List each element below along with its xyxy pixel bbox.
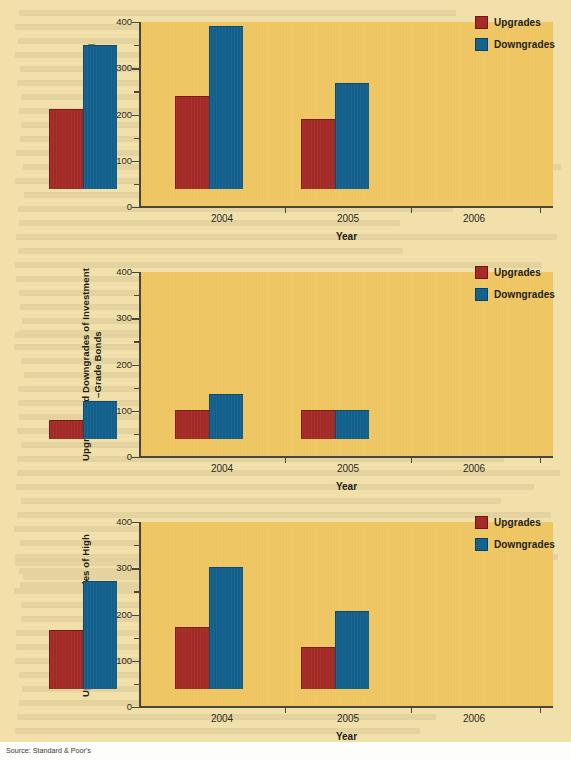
legend-label-downgrades: Downgrades [494,289,555,300]
legend-swatch-downgrades [475,538,488,551]
y-tick-minor [134,638,140,639]
x-tick-minor [540,707,541,713]
x-tick-minor [540,207,541,213]
x-tick-label: 2006 [451,713,497,724]
x-axis-title: Year [140,481,553,492]
legend-item-downgrades: Downgrades [475,288,555,301]
bar-upgrades-2004 [49,630,83,689]
x-tick-label: 2005 [325,713,371,724]
legend-label-upgrades: Upgrades [494,17,541,28]
x-axis-title: Year [140,731,553,742]
x-tick-minor [411,707,412,713]
x-tick-minor [285,457,286,463]
source-note: Source: Standard & Poor's [6,746,91,755]
bar-upgrades-2004 [49,109,83,189]
y-tick-major [132,207,140,208]
y-tick-major [132,365,140,366]
x-tick-minor [411,207,412,213]
y-tick-major [132,68,140,69]
chart-investment-grade: 4003002001000 Upgrades and Downgrades of… [0,254,571,502]
y-tick-major [132,457,140,458]
bar-downgrades-2004 [83,581,117,689]
y-tick-minor [134,184,140,185]
x-tick-minor [285,707,286,713]
y-tick-minor [134,45,140,46]
x-tick-minor [285,207,286,213]
y-tick-major [132,272,140,273]
x-tick-label: 2005 [325,463,371,474]
bar-downgrades-2005 [209,26,243,189]
x-tick-label: 2004 [199,463,245,474]
bar-upgrades-2006 [301,119,335,189]
bar-downgrades-2005 [209,567,243,689]
x-tick-minor [411,457,412,463]
x-tick-label: 2006 [451,463,497,474]
figure-page: 4003002001000 Total Number of Upgrades a… [0,0,571,761]
y-tick-minor [134,138,140,139]
y-tick-minor [134,341,140,342]
bar-group [0,254,413,439]
y-tick-major [132,161,140,162]
y-tick-minor [134,388,140,389]
x-axis-title: Year [140,231,553,242]
y-tick-label: 0 [102,702,132,712]
legend-item-upgrades: Upgrades [475,16,555,29]
legend-swatch-upgrades [475,266,488,279]
bar-upgrades-2005 [175,410,209,439]
bar-upgrades-2005 [175,96,209,190]
x-tick-label: 2004 [199,213,245,224]
bar-downgrades-2006 [335,83,369,189]
x-axis-line [139,456,553,458]
y-tick-minor [134,591,140,592]
legend-item-downgrades: Downgrades [475,538,555,551]
y-tick-minor [134,684,140,685]
x-tick-label: 2004 [199,713,245,724]
y-tick-major [132,115,140,116]
y-tick-major [132,661,140,662]
y-tick-minor [134,434,140,435]
y-tick-major [132,522,140,523]
legend-swatch-downgrades [475,38,488,51]
legend: Upgrades Downgrades [475,516,555,560]
bar-downgrades-2005 [209,394,243,439]
x-tick-minor [540,457,541,463]
bar-downgrades-2004 [83,401,117,439]
legend-item-downgrades: Downgrades [475,38,555,51]
legend-label-upgrades: Upgrades [494,267,541,278]
y-tick-minor [134,295,140,296]
y-tick-major [132,318,140,319]
bar-downgrades-2006 [335,611,369,689]
x-tick-label: 2006 [451,213,497,224]
y-tick-major [132,411,140,412]
legend-label-upgrades: Upgrades [494,517,541,528]
y-tick-minor [134,545,140,546]
legend-item-upgrades: Upgrades [475,516,555,529]
legend-swatch-upgrades [475,516,488,529]
bar-downgrades-2004 [83,45,117,189]
legend: Upgrades Downgrades [475,266,555,310]
bar-upgrades-2006 [301,647,335,689]
x-axis-line [139,706,553,708]
legend-item-upgrades: Upgrades [475,266,555,279]
bar-upgrades-2006 [301,410,335,439]
bar-group [0,4,413,189]
bar-upgrades-2004 [49,420,83,440]
y-tick-major [132,707,140,708]
x-axis-line [139,206,553,208]
y-tick-label: 0 [102,452,132,462]
bar-upgrades-2005 [175,627,209,690]
x-tick-label: 2005 [325,213,371,224]
legend: Upgrades Downgrades [475,16,555,60]
chart-high-yield: 4003002001000 Upgrades and Downgrades of… [0,504,571,752]
y-tick-minor [134,91,140,92]
legend-swatch-downgrades [475,288,488,301]
chart-total-upgrades-downgrades: 4003002001000 Total Number of Upgrades a… [0,4,571,252]
legend-label-downgrades: Downgrades [494,39,555,50]
bar-group [0,504,413,689]
bar-downgrades-2006 [335,410,369,439]
y-tick-major [132,615,140,616]
y-tick-major [132,22,140,23]
legend-swatch-upgrades [475,16,488,29]
y-tick-major [132,568,140,569]
legend-label-downgrades: Downgrades [494,539,555,550]
